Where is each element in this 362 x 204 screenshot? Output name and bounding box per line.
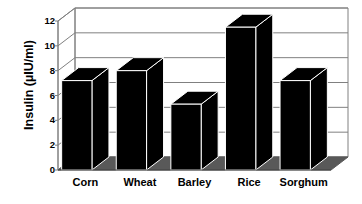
bar-wheat <box>116 58 163 170</box>
bar-sorghum <box>280 68 327 170</box>
plot-area <box>0 0 362 204</box>
bar-rice <box>225 14 272 170</box>
bar-front-face <box>225 27 255 170</box>
bar-side-face <box>201 91 218 170</box>
bar-barley <box>171 91 218 170</box>
bar-front-face <box>62 81 92 170</box>
bar-side-face <box>256 14 273 170</box>
x-axis-category-labels: CornWheatBarleyRiceSorghum <box>58 176 348 194</box>
axis-depth-connector <box>58 33 75 46</box>
x-axis-label-sorghum: Sorghum <box>264 176 344 188</box>
bar-chart: Insulin (µIU/ml) 024681012 CornWheatBarl… <box>0 0 362 204</box>
bar-front-face <box>116 71 146 170</box>
bar-front-face <box>280 81 310 170</box>
bar-side-face <box>92 68 109 170</box>
bar-front-face <box>171 104 201 170</box>
axis-depth-connector <box>58 58 75 71</box>
bar-corn <box>62 68 109 170</box>
bar-side-face <box>147 58 164 170</box>
bar-side-face <box>310 68 327 170</box>
